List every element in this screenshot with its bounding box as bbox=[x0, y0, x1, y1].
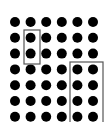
dot bbox=[41, 33, 51, 43]
dot bbox=[88, 17, 98, 27]
dot-grid bbox=[10, 17, 98, 122]
dot bbox=[41, 64, 51, 74]
dot bbox=[41, 49, 51, 59]
dot bbox=[57, 64, 67, 74]
dot bbox=[26, 49, 36, 59]
dot bbox=[72, 112, 82, 122]
dot bbox=[41, 96, 51, 106]
dot bbox=[88, 49, 98, 59]
dot bbox=[26, 17, 36, 27]
dot bbox=[10, 17, 20, 27]
dot bbox=[57, 80, 67, 90]
dot bbox=[72, 33, 82, 43]
dot bbox=[26, 96, 36, 106]
dot bbox=[41, 80, 51, 90]
dot bbox=[26, 64, 36, 74]
dot bbox=[88, 112, 98, 122]
dot bbox=[88, 33, 98, 43]
dot bbox=[72, 80, 82, 90]
dot bbox=[57, 96, 67, 106]
dot bbox=[10, 80, 20, 90]
dot bbox=[10, 49, 20, 59]
dot bbox=[88, 64, 98, 74]
dot bbox=[10, 64, 20, 74]
dot-array-diagram bbox=[0, 0, 110, 122]
dot bbox=[26, 112, 36, 122]
dot bbox=[10, 96, 20, 106]
dot bbox=[88, 96, 98, 106]
dot bbox=[72, 17, 82, 27]
dot bbox=[57, 49, 67, 59]
group-boxes bbox=[24, 30, 103, 122]
dot bbox=[72, 49, 82, 59]
dot bbox=[57, 17, 67, 27]
dot bbox=[10, 33, 20, 43]
dot bbox=[41, 112, 51, 122]
dot bbox=[26, 33, 36, 43]
dot bbox=[88, 80, 98, 90]
dot bbox=[10, 112, 20, 122]
dot bbox=[72, 64, 82, 74]
dot bbox=[72, 96, 82, 106]
dot bbox=[26, 80, 36, 90]
dot bbox=[41, 17, 51, 27]
dot bbox=[57, 112, 67, 122]
dot bbox=[57, 33, 67, 43]
